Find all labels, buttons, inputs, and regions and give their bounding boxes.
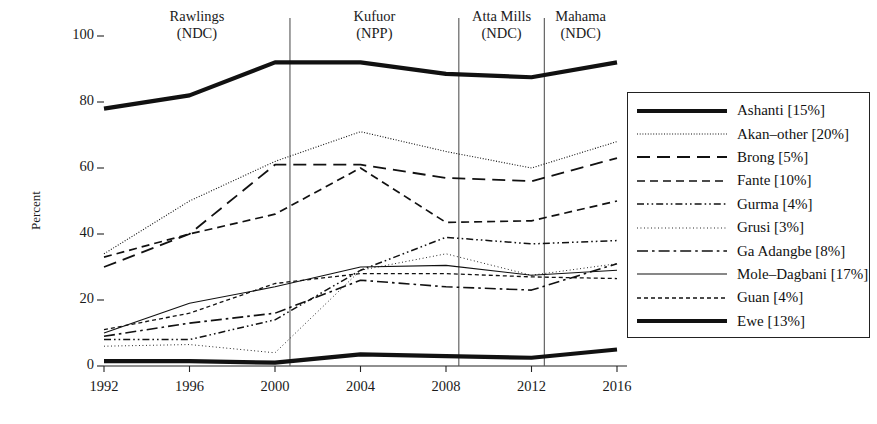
era-kufuor-name: Kufuor	[304, 8, 444, 25]
legend-item[interactable]: Mole–Dagbani [17%]	[636, 263, 861, 286]
x-axis-tick-label: 2008	[411, 378, 481, 395]
y-axis-tick-label: 80	[42, 92, 94, 109]
era-rawlings-name: Rawlings	[127, 8, 267, 25]
legend-item[interactable]: Ga Adangbe [8%]	[636, 239, 861, 262]
series-line-gurma	[104, 237, 617, 339]
y-axis-tick-label: 0	[42, 356, 94, 373]
legend-line-swatch	[636, 244, 728, 258]
legend-item-label: Fante [10%]	[737, 172, 812, 189]
series-line-grusi	[104, 254, 617, 353]
x-axis-tick-label: 1992	[69, 378, 139, 395]
legend-item-label: Gurma [4%]	[737, 196, 812, 213]
legend-item-label: Guan [4%]	[737, 289, 803, 306]
x-axis-tick-label: 2000	[240, 378, 310, 395]
legend-line-swatch	[636, 174, 728, 188]
legend-line-swatch	[636, 314, 728, 328]
y-axis-tick-label: 20	[42, 290, 94, 307]
series-line-fante	[104, 168, 617, 257]
legend-item[interactable]: Ashanti [15%]	[636, 99, 861, 122]
era-mahama: Mahama(NDC)	[511, 8, 651, 42]
legend-line-swatch	[636, 150, 728, 164]
legend-item[interactable]: Fante [10%]	[636, 169, 861, 192]
legend-item-label: Brong [5%]	[737, 149, 808, 166]
x-axis-tick-label: 1996	[155, 378, 225, 395]
series-line-ashanti	[104, 62, 617, 108]
legend-item[interactable]: Akan–other [20%]	[636, 122, 861, 145]
legend-item[interactable]: Ewe [13%]	[636, 310, 861, 333]
legend-line-swatch	[636, 104, 728, 118]
era-rawlings-party: (NDC)	[127, 25, 267, 42]
legend-item-label: Ewe [13%]	[737, 313, 805, 330]
era-mahama-party: (NDC)	[511, 25, 651, 42]
y-axis-tick-label: 60	[42, 158, 94, 175]
series-line-brong	[104, 158, 617, 267]
era-rawlings: Rawlings(NDC)	[127, 8, 267, 42]
series-line-ewe	[104, 350, 617, 363]
legend-item-label: Akan–other [20%]	[737, 126, 849, 143]
legend-item-label: Ashanti [15%]	[737, 102, 825, 119]
x-axis-tick-label: 2016	[582, 378, 652, 395]
legend-line-swatch	[636, 267, 728, 281]
legend-item[interactable]: Guan [4%]	[636, 286, 861, 309]
legend-item[interactable]: Grusi [3%]	[636, 216, 861, 239]
chart-container: Percent Rawlings(NDC)Kufuor(NPP)Atta Mil…	[0, 0, 877, 424]
legend-line-swatch	[636, 221, 728, 235]
era-kufuor-party: (NPP)	[304, 25, 444, 42]
legend-item-label: Mole–Dagbani [17%]	[737, 266, 868, 283]
era-kufuor: Kufuor(NPP)	[304, 8, 444, 42]
x-axis-tick-label: 2012	[497, 378, 567, 395]
chart-legend: Ashanti [15%]Akan–other [20%]Brong [5%]F…	[627, 92, 870, 338]
legend-item[interactable]: Gurma [4%]	[636, 193, 861, 216]
y-axis-tick-label: 100	[42, 26, 94, 43]
x-axis-tick-label: 2004	[326, 378, 396, 395]
legend-item-label: Ga Adangbe [8%]	[737, 243, 845, 260]
legend-item[interactable]: Brong [5%]	[636, 146, 861, 169]
series-line-guan	[104, 274, 617, 330]
legend-line-swatch	[636, 291, 728, 305]
legend-line-swatch	[636, 197, 728, 211]
era-mahama-name: Mahama	[511, 8, 651, 25]
series-line-mole-dagbani	[104, 265, 617, 333]
legend-item-label: Grusi [3%]	[737, 219, 804, 236]
legend-line-swatch	[636, 127, 728, 141]
y-axis-tick-label: 40	[42, 224, 94, 241]
